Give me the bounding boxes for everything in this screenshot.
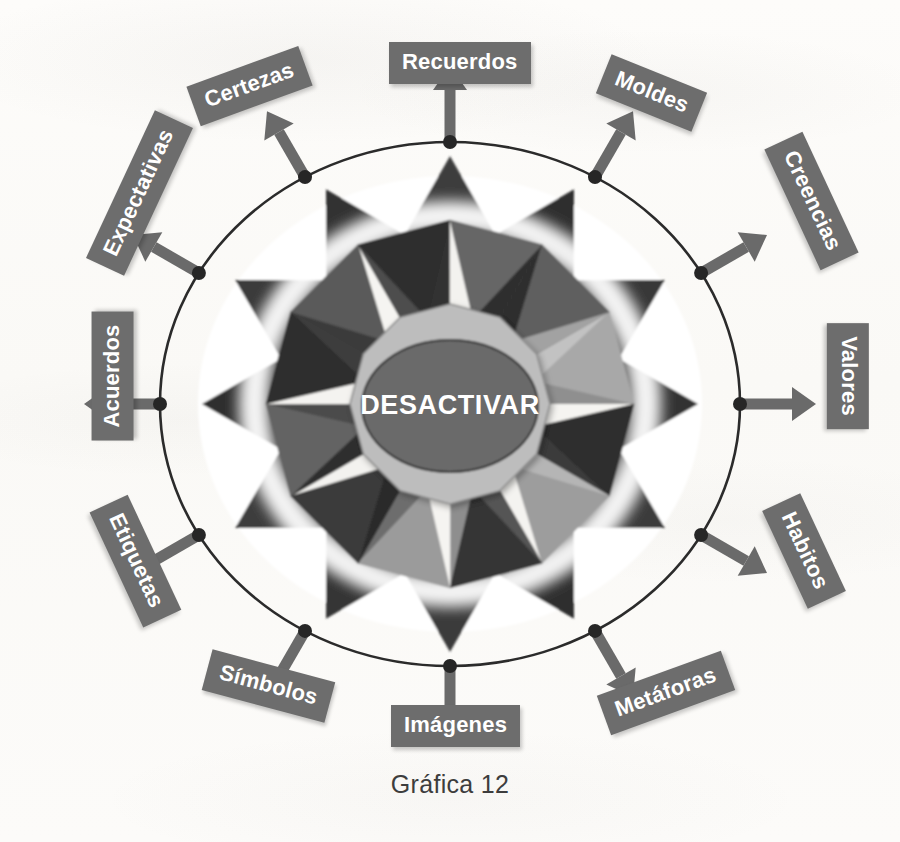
node-label-valores[interactable]: Valores bbox=[827, 323, 869, 429]
spoke-shaft-creencias bbox=[705, 247, 747, 271]
spoke-shaft-habitos bbox=[705, 537, 747, 561]
spoke-shaft-moldes bbox=[597, 132, 621, 174]
figure-caption: Gráfica 12 bbox=[0, 770, 900, 799]
node-dot-creencias[interactable] bbox=[694, 266, 708, 280]
spoke-shaft-etiquetas bbox=[154, 537, 196, 561]
spoke-shaft-expectativas bbox=[154, 247, 196, 271]
node-dot-valores[interactable] bbox=[733, 397, 747, 411]
node-dot-expectativas[interactable] bbox=[192, 266, 206, 280]
node-label-imagenes[interactable]: Imágenes bbox=[391, 705, 520, 747]
node-dot-habitos[interactable] bbox=[694, 528, 708, 542]
arrow-right-icon bbox=[792, 387, 816, 421]
spoke-shaft-certezas bbox=[279, 132, 303, 174]
star-mandala bbox=[198, 156, 702, 652]
node-dot-acuerdos[interactable] bbox=[153, 397, 167, 411]
node-dot-metaforas[interactable] bbox=[588, 624, 602, 638]
node-label-recuerdos[interactable]: Recuerdos bbox=[389, 42, 531, 84]
figure-canvas: DESACTIVAR RecuerdosMoldesCreenciasValor… bbox=[0, 0, 900, 842]
node-label-acuerdos[interactable]: Acuerdos bbox=[92, 311, 134, 440]
spoke-shaft-metaforas bbox=[597, 634, 621, 676]
node-dot-simbolos[interactable] bbox=[298, 624, 312, 638]
node-dot-certezas[interactable] bbox=[298, 170, 312, 184]
center-ellipse bbox=[362, 340, 538, 472]
node-dot-recuerdos[interactable] bbox=[443, 135, 457, 149]
node-dot-etiquetas[interactable] bbox=[192, 528, 206, 542]
node-dot-imagenes[interactable] bbox=[443, 659, 457, 673]
node-dot-moldes[interactable] bbox=[588, 170, 602, 184]
